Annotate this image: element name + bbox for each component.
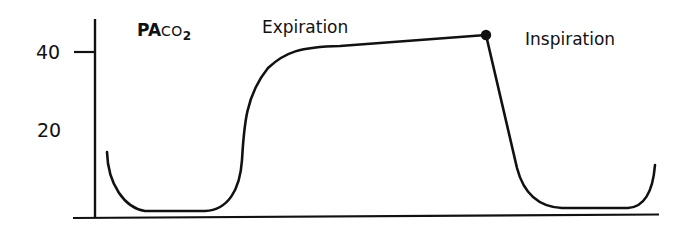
inspiration-label: Inspiration: [525, 31, 615, 48]
x-axis: [73, 215, 659, 219]
capnogram-figure: 40 20 PACO2 Expiration Inspiration: [0, 0, 681, 225]
end-tidal-point-marker: [481, 30, 491, 40]
co2-waveform: [107, 35, 655, 211]
gas-label-small: CO: [161, 23, 183, 39]
gas-label-main: PA: [137, 20, 161, 40]
expiration-label: Expiration: [262, 19, 348, 36]
y-tick-label-40: 40: [36, 43, 60, 62]
gas-label: PACO2: [137, 22, 191, 39]
y-tick-label-20: 20: [37, 121, 61, 140]
gas-label-subscript: 2: [183, 29, 191, 43]
